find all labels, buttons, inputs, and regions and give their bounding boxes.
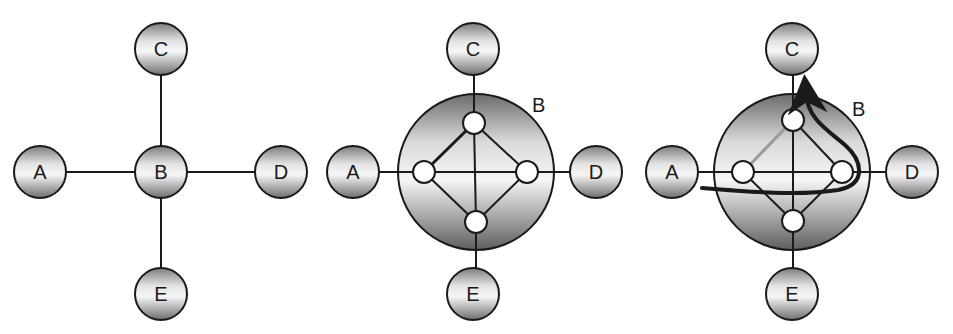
internal-node-left: [413, 161, 435, 183]
node-e: E: [766, 268, 818, 320]
node-label: E: [466, 283, 479, 305]
node-c: C: [766, 23, 818, 75]
node-e: E: [135, 268, 187, 320]
node-label: A: [33, 161, 47, 183]
node-d: D: [570, 146, 622, 198]
node-d: D: [886, 146, 938, 198]
node-c: C: [135, 23, 187, 75]
panel-star-topology: A B C D E: [14, 23, 307, 320]
node-b-label: B: [852, 98, 865, 120]
internal-node-bottom: [782, 210, 804, 232]
node-label: C: [154, 38, 168, 60]
node-label: D: [905, 161, 919, 183]
node-label: D: [274, 161, 288, 183]
node-label: D: [589, 161, 603, 183]
node-label: A: [665, 161, 679, 183]
node-label: E: [785, 283, 798, 305]
node-b: B: [135, 146, 187, 198]
internal-node-right: [831, 161, 853, 183]
internal-node-bottom: [465, 211, 487, 233]
panel-routed-path: B A C D E: [646, 23, 938, 320]
internal-node-top: [782, 109, 804, 131]
internal-node-right: [516, 161, 538, 183]
panel-expanded-node-b: B A C D E: [327, 23, 622, 320]
network-topology-figure: A B C D E B: [0, 0, 953, 334]
node-c: C: [447, 23, 499, 75]
node-e: E: [447, 268, 499, 320]
internal-node-top: [463, 112, 485, 134]
node-label: C: [466, 38, 480, 60]
internal-node-left: [732, 161, 754, 183]
node-a: A: [14, 146, 66, 198]
node-label: E: [154, 283, 167, 305]
node-label: A: [346, 161, 360, 183]
node-d: D: [255, 146, 307, 198]
node-a: A: [646, 146, 698, 198]
node-label: C: [785, 38, 799, 60]
node-label: B: [154, 161, 167, 183]
node-a: A: [327, 146, 379, 198]
node-b-label: B: [532, 94, 545, 116]
